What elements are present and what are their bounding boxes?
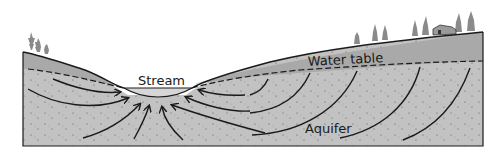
trees-left-icon: [28, 32, 49, 54]
stream-label: Stream: [138, 73, 185, 88]
aquifer-label: Aquifer: [305, 121, 352, 136]
house-icon: [433, 25, 456, 35]
groundwater-diagram: Stream Water table Aquifer: [0, 0, 504, 158]
